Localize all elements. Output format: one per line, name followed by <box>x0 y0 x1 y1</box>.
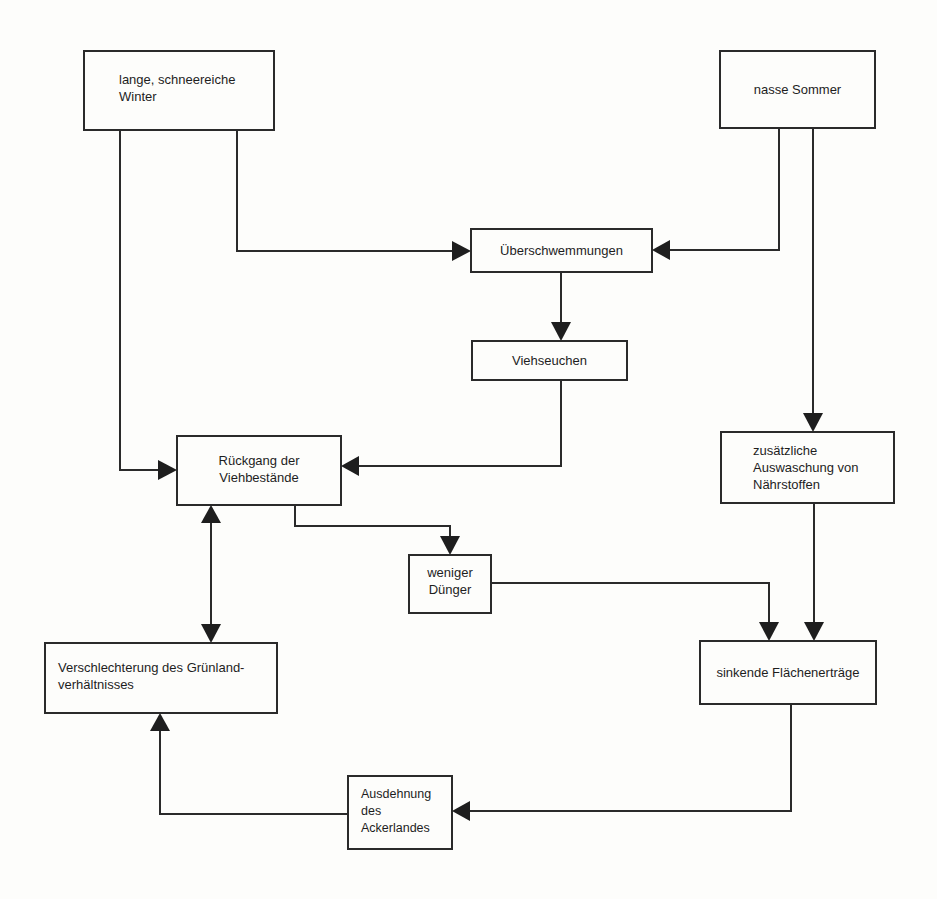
node-weniger-duenger: weniger Dünger <box>408 554 492 614</box>
node-ueberschwemmungen: Überschwemmungen <box>470 228 653 273</box>
edge-winter-to-ueberschwemmungen <box>237 130 452 251</box>
arrowhead-up-icon <box>201 505 221 523</box>
node-label: Rückgang der Viehbestände <box>219 452 300 486</box>
node-sinkende-flaechenertraege: sinkende Flächenerträge <box>699 640 877 705</box>
arrowhead-right-icon <box>158 460 177 480</box>
node-nasse-sommer: nasse Sommer <box>719 50 876 129</box>
arrowhead-down-icon <box>440 536 460 555</box>
arrowhead-down-icon <box>803 413 823 432</box>
arrowhead-down-icon <box>201 624 221 643</box>
node-label: sinkende Flächenerträge <box>716 664 859 681</box>
arrowhead-left-icon <box>452 801 470 821</box>
edge-flaechenertraege-to-ackerland <box>470 704 791 811</box>
node-rueckgang-der-viehbestaende: Rückgang der Viehbestände <box>176 435 342 506</box>
node-label: Verschlechterung des Grünland- verhältni… <box>58 659 244 693</box>
node-label: weniger Dünger <box>427 564 473 598</box>
edge-ackerland-to-gruenland <box>160 731 347 814</box>
node-verschlechterung-gruenland: Verschlechterung des Grünland- verhältni… <box>44 642 278 714</box>
node-label: Ausdehnung des Ackerlandes <box>361 786 451 837</box>
arrowhead-right-icon <box>452 241 471 261</box>
edge-viehseuchen-to-rueckgang <box>359 380 561 466</box>
node-lange-schneereiche-winter: lange, schneereiche Winter <box>83 50 275 131</box>
arrowhead-up-icon <box>150 713 170 731</box>
node-ausdehnung-ackerland: Ausdehnung des Ackerlandes <box>347 775 453 850</box>
edge-winter-to-rueckgang <box>120 130 158 470</box>
arrowhead-left-icon <box>652 240 670 260</box>
edge-rueckgang-to-duenger <box>295 505 450 536</box>
node-label: Viehseuchen <box>512 352 587 369</box>
node-label: zusätzliche Auswaschung von Nährstoffen <box>753 442 859 493</box>
edge-sommer-to-ueberschwemmungen <box>670 128 779 250</box>
node-viehseuchen: Viehseuchen <box>471 340 628 381</box>
arrowhead-left-icon <box>341 456 359 476</box>
node-zusaetzliche-auswaschung: zusätzliche Auswaschung von Nährstoffen <box>720 431 895 504</box>
node-label: nasse Sommer <box>754 81 841 98</box>
node-label: lange, schneereiche Winter <box>119 71 235 105</box>
arrowhead-down-icon <box>804 622 824 641</box>
node-label: Überschwemmungen <box>500 242 623 259</box>
arrowhead-down-icon <box>759 622 779 641</box>
edge-duenger-to-flaechenertraege <box>491 583 769 622</box>
arrowhead-down-icon <box>551 322 571 341</box>
